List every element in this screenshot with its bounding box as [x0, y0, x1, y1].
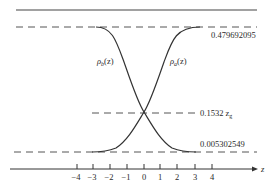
tick-label: 0 [142, 172, 146, 182]
rho-b-label: ρb(z) [96, 56, 114, 67]
z-axis-label: z [260, 164, 265, 174]
tick-label: −1 [121, 172, 130, 182]
rho-b-curve [96, 27, 196, 152]
tick-label: 1 [158, 172, 162, 182]
axis-arrow-icon [252, 167, 258, 172]
lower-level-label: 0.005302549 [200, 139, 245, 149]
mid-level-label: 0.1532zg [200, 108, 232, 119]
rho-a-label: ρa(z) [169, 56, 187, 67]
upper-level-label: 0.479692095 [211, 30, 256, 40]
tick-label: 4 [210, 172, 215, 182]
rho-a-curve [92, 27, 200, 152]
x-ticks [77, 164, 212, 169]
tick-label: −3 [87, 172, 96, 182]
density-profile-figure: 0.479692095 0.1532zg 0.005302549 ρb(z) ρ… [0, 0, 275, 189]
tick-label: −4 [71, 172, 81, 182]
tick-label: 3 [193, 172, 197, 182]
tick-label: −2 [104, 172, 113, 182]
x-tick-labels: −4 −3 −2 −1 0 1 2 3 4 [71, 172, 214, 182]
tick-label: 2 [175, 172, 179, 182]
